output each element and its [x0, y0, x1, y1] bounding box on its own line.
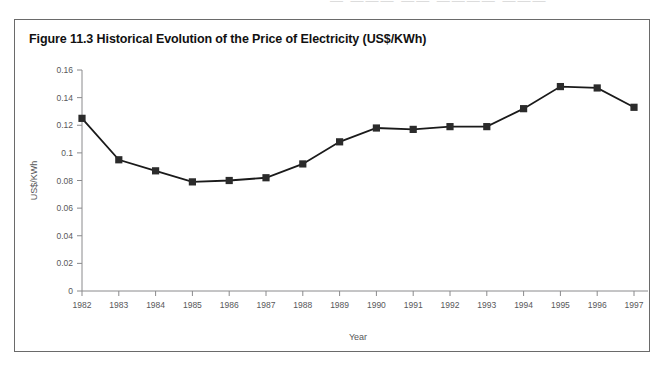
- y-axis-title: US$/KWh: [29, 161, 39, 201]
- data-point-marker: [299, 160, 306, 167]
- data-point-marker: [520, 105, 527, 112]
- x-tick-label: 1988: [293, 300, 312, 310]
- x-tick-label: 1985: [183, 300, 202, 310]
- x-tick-label: 1986: [220, 300, 239, 310]
- x-tick-label: 1993: [477, 300, 496, 310]
- x-tick-label: 1982: [73, 300, 92, 310]
- data-point-marker: [557, 83, 564, 90]
- y-axis: 00.020.040.060.080.10.120.140.16: [56, 65, 82, 296]
- data-point-marker: [189, 178, 196, 185]
- data-point-marker: [594, 84, 601, 91]
- y-tick-label: 0.14: [56, 93, 73, 103]
- x-tick-label: 1991: [404, 300, 423, 310]
- x-tick-label: 1996: [588, 300, 607, 310]
- x-axis-title: Year: [349, 332, 367, 342]
- figure-frame: Figure 11.3 Historical Evolution of the …: [14, 19, 650, 352]
- x-tick-label: 1994: [514, 300, 533, 310]
- line-chart: 00.020.040.060.080.10.120.140.16 1982198…: [15, 20, 651, 353]
- data-point-marker: [446, 123, 453, 130]
- scan-artifact-text: — ——— —— ———— ———: [330, 0, 547, 8]
- y-tick-label: 0.04: [56, 231, 73, 241]
- data-point-marker: [410, 126, 417, 133]
- x-tick-label: 1997: [625, 300, 644, 310]
- chart-area: 00.020.040.060.080.10.120.140.16 1982198…: [15, 20, 651, 353]
- x-tick-label: 1990: [367, 300, 386, 310]
- x-tick-label: 1987: [257, 300, 276, 310]
- y-tick-label: 0.12: [56, 120, 73, 130]
- price-series: [78, 83, 637, 186]
- x-tick-label: 1992: [441, 300, 460, 310]
- y-tick-label: 0: [68, 286, 73, 296]
- y-tick-label: 0.1: [61, 148, 73, 158]
- y-tick-label: 0.02: [56, 258, 73, 268]
- series-line: [82, 87, 634, 182]
- data-point-marker: [483, 123, 490, 130]
- data-point-marker: [262, 174, 269, 181]
- data-point-marker: [373, 124, 380, 131]
- data-point-marker: [630, 104, 637, 111]
- x-tick-label: 1995: [551, 300, 570, 310]
- y-tick-label: 0.16: [56, 65, 73, 75]
- x-tick-label: 1984: [146, 300, 165, 310]
- y-tick-label: 0.06: [56, 203, 73, 213]
- scan-artifact: — ——— —— ———— ———: [0, 0, 663, 14]
- data-point-marker: [226, 177, 233, 184]
- data-point-marker: [152, 167, 159, 174]
- data-point-marker: [336, 138, 343, 145]
- data-point-marker: [115, 156, 122, 163]
- x-axis: 1982198319841985198619871988198919901991…: [73, 291, 648, 310]
- x-tick-label: 1983: [109, 300, 128, 310]
- x-tick-label: 1989: [330, 300, 349, 310]
- data-point-marker: [78, 115, 85, 122]
- y-tick-label: 0.08: [56, 176, 73, 186]
